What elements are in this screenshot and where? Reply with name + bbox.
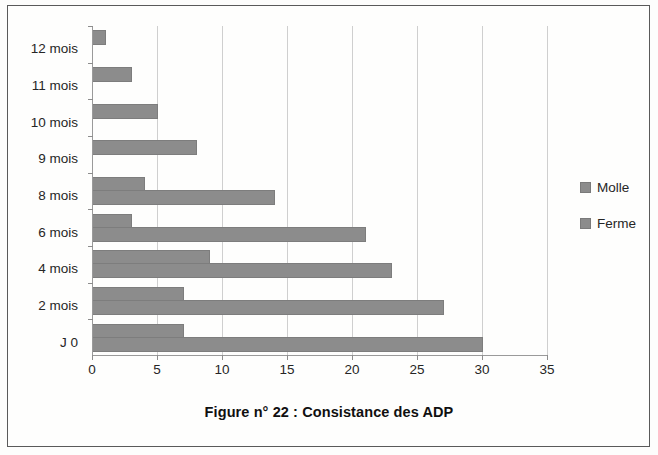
legend-item: Molle (580, 180, 654, 195)
bar-molle (93, 104, 158, 119)
y-axis-tick (88, 63, 93, 64)
bar-ferme (93, 263, 392, 278)
y-axis-label: 6 mois (38, 224, 78, 239)
y-axis-label: 2 mois (38, 298, 78, 313)
y-axis-tick (88, 319, 93, 320)
legend-label: Ferme (597, 216, 636, 231)
bar-ferme (93, 227, 366, 242)
x-axis-tick (417, 355, 418, 360)
y-axis-tick (88, 209, 93, 210)
y-axis-label: 8 mois (38, 188, 78, 203)
x-axis-tick (222, 355, 223, 360)
bar-chart: J 02 mois4 mois6 mois8 mois9 mois10 mois… (0, 0, 658, 455)
figure-caption: Figure n° 22 : Consistance des ADP (0, 404, 658, 420)
bar-ferme (93, 190, 275, 205)
y-axis-label: 10 mois (31, 114, 78, 129)
y-axis-tick (88, 283, 93, 284)
y-axis-tick (88, 246, 93, 247)
x-axis-label: 20 (344, 362, 359, 377)
legend-label: Molle (597, 180, 629, 195)
bar-molle (93, 140, 197, 155)
y-axis-label: J 0 (60, 334, 78, 349)
x-axis-label: 30 (474, 362, 489, 377)
x-axis-tick (157, 355, 158, 360)
y-axis-tick (88, 173, 93, 174)
x-axis-label: 15 (279, 362, 294, 377)
x-axis-line (92, 355, 547, 356)
bar-ferme (93, 337, 483, 352)
y-axis-labels: J 02 mois4 mois6 mois8 mois9 mois10 mois… (0, 26, 86, 356)
bar-molle (93, 30, 106, 45)
legend-swatch-icon (580, 182, 591, 193)
y-axis-label: 4 mois (38, 261, 78, 276)
x-axis-tick (482, 355, 483, 360)
x-axis-tick (352, 355, 353, 360)
y-axis-label: 11 mois (32, 78, 78, 93)
x-axis-label: 25 (409, 362, 424, 377)
y-axis-tick (88, 26, 93, 27)
bar-molle (93, 67, 132, 82)
plot-area (92, 26, 547, 356)
legend-swatch-icon (580, 218, 591, 229)
x-axis-tick (92, 355, 93, 360)
legend-item: Ferme (580, 216, 654, 231)
x-axis-tick (287, 355, 288, 360)
figure-page: J 02 mois4 mois6 mois8 mois9 mois10 mois… (0, 0, 658, 455)
y-axis-label: 9 mois (38, 151, 78, 166)
x-axis-tick (547, 355, 548, 360)
chart-legend: MolleFerme (580, 180, 654, 252)
x-axis-label: 0 (88, 362, 96, 377)
y-axis-tick (88, 136, 93, 137)
gridline-x (547, 26, 548, 356)
x-axis-labels: 05101520253035 (92, 362, 547, 384)
y-axis-tick (88, 99, 93, 100)
x-axis-label: 5 (153, 362, 161, 377)
x-axis-label: 35 (539, 362, 554, 377)
y-axis-label: 12 mois (31, 41, 78, 56)
bar-ferme (93, 300, 444, 315)
gridline-x (482, 26, 483, 356)
x-axis-label: 10 (214, 362, 229, 377)
